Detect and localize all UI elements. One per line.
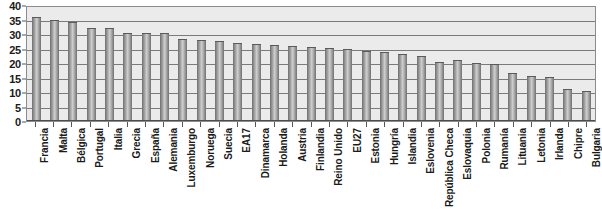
bar[interactable]: [233, 43, 242, 121]
x-tick-labels: FranciaMaltaBélgicaPortugalItaliaGreciaE…: [26, 128, 596, 211]
x-tick-mark: [200, 122, 201, 127]
bar-slot: [430, 7, 448, 121]
bar-slot: [265, 7, 283, 121]
y-tick-label: 40: [9, 1, 21, 12]
bar[interactable]: [32, 17, 41, 121]
x-tick-mark: [586, 122, 587, 127]
x-tick-mark: [90, 122, 91, 127]
bar-slot: [504, 7, 522, 121]
bar[interactable]: [343, 49, 352, 121]
bar[interactable]: [142, 33, 151, 121]
x-label-slot: Holanda: [265, 128, 283, 211]
x-tick-mark: [71, 122, 72, 127]
x-tick-label: Bulgaria: [592, 128, 602, 167]
bar[interactable]: [87, 28, 96, 121]
bar-slot: [155, 7, 173, 121]
x-tick-mark: [384, 122, 385, 127]
bar[interactable]: [68, 22, 77, 121]
x-tick-slot: [339, 122, 357, 127]
x-tick-mark: [329, 122, 330, 127]
bar[interactable]: [545, 77, 554, 121]
x-tick-mark: [531, 122, 532, 127]
y-tick-label: 30: [9, 30, 21, 41]
bar[interactable]: [50, 20, 59, 122]
bar-slot: [82, 7, 100, 121]
bar[interactable]: [398, 54, 407, 121]
x-tick-marks: [26, 122, 596, 127]
y-tick-label: 25: [9, 44, 21, 55]
x-tick-slot: [375, 122, 393, 127]
x-tick-slot: [63, 122, 81, 127]
bar[interactable]: [380, 52, 389, 121]
bar-slot: [119, 7, 137, 121]
bar-slot: [64, 7, 82, 121]
bar[interactable]: [288, 46, 297, 121]
bar[interactable]: [197, 40, 206, 121]
bar[interactable]: [325, 48, 334, 121]
x-label-slot: Reino Unido: [320, 128, 338, 211]
bar-slot: [540, 7, 558, 121]
x-label-slot: Islandia: [394, 128, 412, 211]
bar[interactable]: [453, 60, 462, 121]
x-tick-mark: [421, 122, 422, 127]
x-tick-slot: [265, 122, 283, 127]
x-tick-slot: [302, 122, 320, 127]
bar[interactable]: [527, 76, 536, 121]
bar-slot: [449, 7, 467, 121]
bar[interactable]: [123, 33, 132, 121]
x-tick-mark: [494, 122, 495, 127]
bar-chart: 0510152025303540 FranciaMaltaBélgicaPort…: [0, 0, 602, 211]
bar[interactable]: [563, 89, 572, 121]
x-tick-mark: [53, 122, 54, 127]
bar[interactable]: [270, 45, 279, 121]
x-label-slot: Dinamarca: [247, 128, 265, 211]
x-tick-slot: [486, 122, 504, 127]
bar[interactable]: [105, 28, 114, 121]
bar[interactable]: [435, 62, 444, 121]
plot-area: [26, 6, 596, 122]
x-tick-mark: [568, 122, 569, 127]
bar[interactable]: [160, 33, 169, 121]
bar[interactable]: [215, 41, 224, 121]
bar[interactable]: [307, 47, 316, 121]
x-tick-slot: [541, 122, 559, 127]
x-tick-mark: [292, 122, 293, 127]
bar[interactable]: [417, 56, 426, 121]
bar[interactable]: [252, 44, 261, 121]
x-tick-slot: [81, 122, 99, 127]
x-tick-slot: [100, 122, 118, 127]
x-tick-slot: [431, 122, 449, 127]
x-tick-slot: [155, 122, 173, 127]
x-label-slot: España: [136, 128, 154, 211]
x-tick-mark: [366, 122, 367, 127]
x-tick-mark: [108, 122, 109, 127]
bar[interactable]: [490, 64, 499, 121]
x-tick-mark: [255, 122, 256, 127]
bar-slot: [27, 7, 45, 121]
bar-slot: [229, 7, 247, 121]
x-label-slot: Irlanda: [541, 128, 559, 211]
bar-slot: [192, 7, 210, 121]
bar-slot: [320, 7, 338, 121]
bar-slot: [137, 7, 155, 121]
bar[interactable]: [472, 63, 481, 121]
bars-layer: [27, 7, 595, 121]
x-tick-mark: [403, 122, 404, 127]
x-tick-slot: [559, 122, 577, 127]
x-tick-mark: [513, 122, 514, 127]
x-tick-slot: [26, 122, 44, 127]
x-label-slot: Rumanía: [486, 128, 504, 211]
x-tick-slot: [504, 122, 522, 127]
x-label-slot: Noruega: [192, 128, 210, 211]
x-label-slot: Grecia: [118, 128, 136, 211]
x-tick-slot: [44, 122, 62, 127]
x-tick-slot: [357, 122, 375, 127]
bar[interactable]: [362, 51, 371, 121]
y-tick-label: 15: [9, 73, 21, 84]
x-tick-slot: [394, 122, 412, 127]
bar[interactable]: [178, 39, 187, 121]
bar[interactable]: [508, 73, 517, 121]
bar[interactable]: [582, 91, 591, 121]
x-tick-mark: [145, 122, 146, 127]
x-label-slot: Austria: [283, 128, 301, 211]
